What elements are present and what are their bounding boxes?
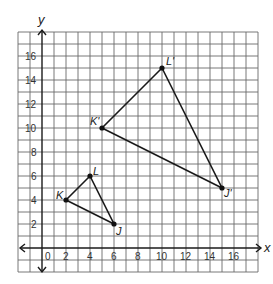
x-axis-label: x [263,240,271,255]
y-tick-4: 4 [31,195,37,206]
x-tick-12: 12 [180,251,192,262]
x-tick-8: 8 [135,251,141,262]
y-tick-16: 16 [25,51,37,62]
y-tick-labels: 2 4 6 8 10 12 14 16 [25,51,37,230]
label-k: K [56,189,64,201]
y-axis-label: y [37,12,46,27]
coordinate-plane: x y 0 2 4 6 8 10 12 14 16 2 4 6 8 10 12 … [0,0,273,284]
y-tick-12: 12 [25,99,37,110]
y-tick-2: 2 [31,219,37,230]
y-tick-10: 10 [25,123,37,134]
origin-label: 0 [45,251,51,262]
x-tick-2: 2 [63,251,69,262]
label-j-prime: J' [223,187,233,199]
x-tick-10: 10 [156,251,168,262]
grid [18,32,258,272]
triangle-jkl-prime: J' K' L' [90,55,233,199]
x-tick-14: 14 [204,251,216,262]
vertex-k [63,197,68,202]
label-j: J [115,225,122,237]
label-l: L [93,165,99,177]
y-tick-14: 14 [25,75,37,86]
x-tick-6: 6 [111,251,117,262]
vertex-l-prime [159,65,164,70]
label-l-prime: L' [166,55,175,67]
x-tick-4: 4 [87,251,93,262]
y-tick-6: 6 [31,171,37,182]
vertex-k-prime [99,125,104,130]
y-tick-8: 8 [31,147,37,158]
label-k-prime: K' [90,115,100,127]
vertex-l [87,173,92,178]
x-tick-16: 16 [228,251,240,262]
